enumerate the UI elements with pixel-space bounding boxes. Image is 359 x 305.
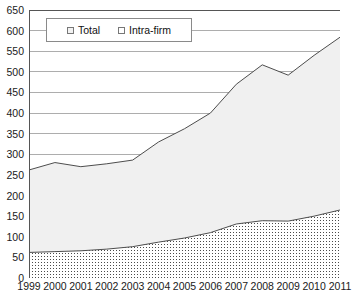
x-tick-label: 2008 [251,281,274,292]
legend-item-intra-firm: Intra-firm [118,25,171,36]
y-axis-labels: 050100150200250300350400450500550600650 [0,0,24,305]
x-tick-label: 2003 [121,281,144,292]
x-tick-label: 2005 [173,281,196,292]
plot-area [29,10,340,278]
y-tick-label: 50 [0,252,24,263]
chart-legend: Total Intra-firm [46,18,192,42]
x-tick-label: 2006 [199,281,222,292]
legend-item-total: Total [67,25,100,36]
y-tick-label: 450 [0,87,24,98]
x-tick-label: 1999 [17,281,40,292]
x-tick-label: 2002 [95,281,118,292]
y-tick-label: 400 [0,108,24,119]
x-tick-label: 2010 [302,281,325,292]
legend-swatch-total-icon [67,27,74,34]
y-tick-label: 550 [0,46,24,57]
x-tick-label: 2000 [43,281,66,292]
y-tick-label: 150 [0,211,24,222]
legend-swatch-intra-firm-icon [118,27,125,34]
legend-label-total: Total [78,25,100,36]
y-tick-label: 300 [0,149,24,160]
y-tick-label: 500 [0,67,24,78]
y-tick-label: 200 [0,190,24,201]
legend-label-intra-firm: Intra-firm [129,25,171,36]
x-tick-label: 2007 [225,281,248,292]
x-tick-label: 2011 [329,281,352,292]
y-tick-label: 600 [0,25,24,36]
y-tick-label: 350 [0,128,24,139]
x-tick-label: 2001 [69,281,92,292]
y-tick-label: 250 [0,170,24,181]
area-chart: 050100150200250300350400450500550600650 … [0,0,359,305]
x-tick-label: 2004 [147,281,170,292]
chart-svg [29,10,340,278]
y-tick-label: 100 [0,232,24,243]
x-axis-labels: 1999200020012002200320042005200620072008… [0,281,359,301]
y-tick-label: 650 [0,5,24,16]
x-tick-label: 2009 [276,281,299,292]
